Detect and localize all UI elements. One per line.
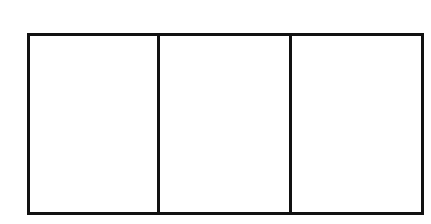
panel-divider-1 xyxy=(157,33,160,215)
panel-divider-2 xyxy=(289,33,292,215)
three-panel-diagram xyxy=(0,0,431,224)
outer-frame xyxy=(27,33,424,215)
